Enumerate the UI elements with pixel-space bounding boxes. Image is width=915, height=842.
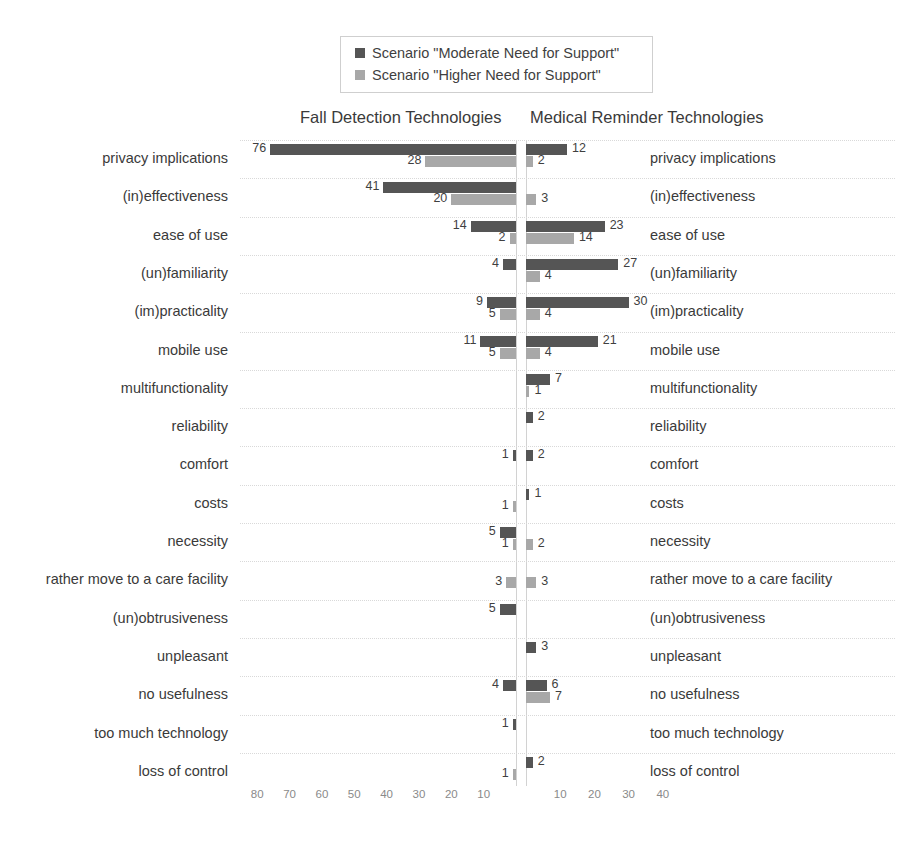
category-label-left: loss of control	[0, 763, 228, 779]
bar-value-label: 1	[491, 449, 509, 460]
category-label-right: too much technology	[650, 725, 915, 741]
panel-headers: Fall Detection Technologies Medical Remi…	[0, 108, 915, 132]
gridline	[240, 676, 895, 677]
bar-value-label: 2	[538, 155, 545, 166]
category-label-right: costs	[650, 495, 915, 511]
category-label-left: no usefulness	[0, 686, 228, 702]
bar-value-label: 2	[488, 232, 506, 243]
chart-row: mobile usemobile use115214	[0, 332, 915, 370]
bar-value-label: 23	[610, 220, 624, 231]
bar-value-label: 28	[403, 155, 421, 166]
bar-value-label: 4	[481, 258, 499, 269]
panel-header-medical-reminder: Medical Reminder Technologies	[530, 108, 764, 127]
category-label-right: unpleasant	[650, 648, 915, 664]
bar-right-higher	[526, 271, 540, 282]
gridline	[240, 523, 895, 524]
bar-value-label: 30	[634, 296, 648, 307]
bar-value-label: 4	[545, 308, 552, 319]
bar-value-label: 21	[603, 335, 617, 346]
category-label-right: (un)obtrusiveness	[650, 610, 915, 626]
bar-value-label: 1	[491, 718, 509, 729]
x-tick-left-80: 80	[251, 788, 264, 800]
category-label-right: necessity	[650, 533, 915, 549]
gridline	[240, 715, 895, 716]
gridline	[240, 178, 895, 179]
category-label-right: (in)effectiveness	[650, 188, 915, 204]
bar-left-moderate	[500, 604, 516, 615]
bar-value-label: 1	[534, 488, 541, 499]
gridline	[240, 485, 895, 486]
gridline	[240, 255, 895, 256]
bar-value-label: 14	[449, 220, 467, 231]
bar-value-label: 5	[478, 308, 496, 319]
gridline	[240, 408, 895, 409]
bar-value-label: 1	[491, 538, 509, 549]
bar-right-moderate	[526, 144, 567, 155]
bar-left-moderate	[480, 336, 516, 347]
legend-label-moderate: Scenario "Moderate Need for Support"	[372, 45, 619, 61]
legend-swatch-light-icon	[355, 70, 365, 80]
legend-item-moderate: Scenario "Moderate Need for Support"	[355, 42, 642, 64]
chart-row: comfortcomfort12	[0, 446, 915, 484]
bar-value-label: 76	[248, 143, 266, 154]
bar-left-higher	[513, 539, 516, 550]
bar-left-higher	[513, 769, 516, 780]
gridline	[240, 446, 895, 447]
bar-right-higher	[526, 156, 533, 167]
bar-value-label: 4	[545, 347, 552, 358]
gridline	[240, 140, 895, 141]
category-label-left: costs	[0, 495, 228, 511]
bar-value-label: 5	[478, 526, 496, 537]
bar-right-moderate	[526, 642, 536, 653]
x-tick-right-30: 30	[622, 788, 635, 800]
chart-row: rather move to a care facilityrather mov…	[0, 561, 915, 599]
category-label-right: loss of control	[650, 763, 915, 779]
bar-right-higher	[526, 233, 574, 244]
chart-row: necessitynecessity512	[0, 523, 915, 561]
bar-right-higher	[526, 539, 533, 550]
bar-left-higher	[500, 348, 516, 359]
category-label-left: (un)obtrusiveness	[0, 610, 228, 626]
bar-value-label: 4	[545, 270, 552, 281]
bar-value-label: 12	[572, 143, 586, 154]
x-tick-left-70: 70	[283, 788, 296, 800]
bar-value-label: 2	[538, 449, 545, 460]
x-tick-left-20: 20	[445, 788, 458, 800]
bar-right-moderate	[526, 297, 629, 308]
bar-right-higher	[526, 348, 540, 359]
bar-value-label: 5	[478, 347, 496, 358]
gridline	[240, 638, 895, 639]
legend-swatch-dark-icon	[355, 48, 365, 58]
bar-value-label: 1	[534, 385, 541, 396]
bar-left-moderate	[513, 450, 516, 461]
gridline	[240, 217, 895, 218]
category-label-right: mobile use	[650, 342, 915, 358]
legend-item-higher: Scenario "Higher Need for Support"	[355, 64, 642, 86]
bar-value-label: 1	[491, 768, 509, 779]
bar-right-moderate	[526, 412, 533, 423]
legend-label-higher: Scenario "Higher Need for Support"	[372, 67, 601, 83]
bar-left-moderate	[270, 144, 516, 155]
category-label-right: (un)familiarity	[650, 265, 915, 281]
bar-right-moderate	[526, 336, 598, 347]
bar-left-higher	[425, 156, 516, 167]
chart-row: multifunctionalitymultifunctionality71	[0, 370, 915, 408]
bar-left-higher	[510, 233, 516, 244]
x-tick-left-10: 10	[477, 788, 490, 800]
bar-value-label: 1	[491, 500, 509, 511]
category-label-right: reliability	[650, 418, 915, 434]
chart-row: privacy implicationsprivacy implications…	[0, 140, 915, 178]
bar-right-higher	[526, 692, 550, 703]
bar-value-label: 2	[538, 538, 545, 549]
bar-left-moderate	[513, 719, 516, 730]
bar-left-moderate	[383, 182, 516, 193]
category-label-left: (un)familiarity	[0, 265, 228, 281]
category-label-right: comfort	[650, 456, 915, 472]
category-label-right: ease of use	[650, 227, 915, 243]
chart-row: reliabilityreliability2	[0, 408, 915, 446]
bar-value-label: 7	[555, 691, 562, 702]
category-label-left: rather move to a care facility	[0, 571, 228, 587]
category-label-right: rather move to a care facility	[650, 571, 915, 587]
bar-value-label: 2	[538, 756, 545, 767]
x-tick-right-20: 20	[588, 788, 601, 800]
